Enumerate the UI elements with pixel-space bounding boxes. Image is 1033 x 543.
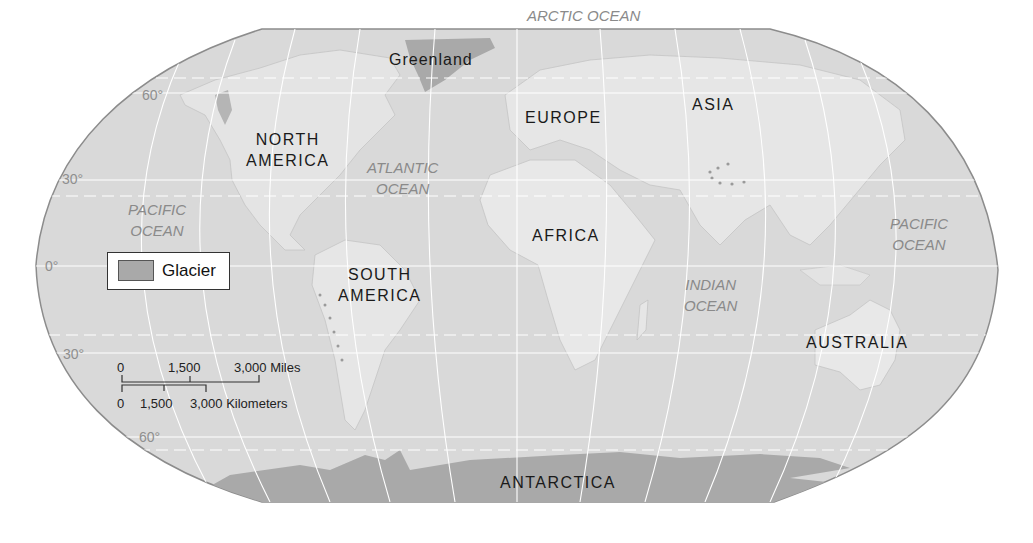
scale-km-1500: 1,500 xyxy=(140,396,173,411)
label-pacific-ocean-west-line1: PACIFIC xyxy=(128,202,186,217)
latitude-label-60s: 60° xyxy=(139,430,160,444)
scale-bar-lines xyxy=(112,374,272,394)
label-south-america-line1: SOUTH xyxy=(338,267,421,283)
label-arctic-ocean: ARCTIC OCEAN xyxy=(527,8,640,23)
latitude-label-0: 0° xyxy=(45,259,58,273)
label-africa: AFRICA xyxy=(532,228,600,244)
label-pacific-ocean-east-line1: PACIFIC xyxy=(890,216,948,231)
scale-miles-1500: 1,500 xyxy=(168,360,201,375)
label-indian-ocean-line2: OCEAN xyxy=(684,298,737,313)
label-indian-ocean: INDIAN OCEAN xyxy=(684,277,737,313)
label-pacific-ocean-west: PACIFIC OCEAN xyxy=(128,202,186,238)
label-antarctica: ANTARCTICA xyxy=(500,475,616,491)
legend-label-glacier: Glacier xyxy=(162,261,216,281)
scale-miles-3000: 3,000 Miles xyxy=(234,360,300,375)
label-indian-ocean-line1: INDIAN xyxy=(684,277,737,292)
label-atlantic-ocean-line2: OCEAN xyxy=(367,181,438,196)
label-north-america-line2: AMERICA xyxy=(246,153,329,169)
latitude-label-30n: 30° xyxy=(62,172,83,186)
label-south-america-line2: AMERICA xyxy=(338,288,421,304)
legend: Glacier xyxy=(107,252,230,290)
label-greenland: Greenland xyxy=(389,52,473,68)
label-north-america: NORTH AMERICA xyxy=(246,132,329,169)
label-pacific-ocean-east: PACIFIC OCEAN xyxy=(890,216,948,252)
label-europe: EUROPE xyxy=(525,110,602,126)
latitude-label-30s: 30° xyxy=(63,347,84,361)
scale-bar: 0 1,500 3,000 Miles 0 1,500 3,000 Kilome… xyxy=(112,360,342,420)
glacier-swatch xyxy=(118,260,154,281)
label-north-america-line1: NORTH xyxy=(246,132,329,148)
label-australia: AUSTRALIA xyxy=(806,335,908,351)
label-south-america: SOUTH AMERICA xyxy=(338,267,421,304)
scale-miles-0: 0 xyxy=(117,360,124,375)
latitude-label-60n: 60° xyxy=(142,88,163,102)
label-asia: ASIA xyxy=(692,97,734,113)
label-pacific-ocean-west-line2: OCEAN xyxy=(128,223,186,238)
label-pacific-ocean-east-line2: OCEAN xyxy=(890,237,948,252)
scale-km-0: 0 xyxy=(117,396,124,411)
scale-km-3000: 3,000 Kilometers xyxy=(190,396,288,411)
label-atlantic-ocean: ATLANTIC OCEAN xyxy=(367,160,438,196)
label-atlantic-ocean-line1: ATLANTIC xyxy=(367,160,438,175)
